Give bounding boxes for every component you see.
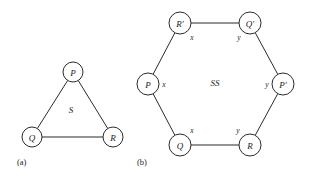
graph-node: R xyxy=(239,134,261,156)
graph-node: P xyxy=(63,62,83,82)
region-label: S xyxy=(69,105,74,115)
graph-node: R xyxy=(103,127,123,147)
node-label: Q xyxy=(29,133,36,143)
node-label: R xyxy=(246,141,253,151)
node-label: P′ xyxy=(278,80,287,90)
graph-edge xyxy=(37,80,67,128)
panel-caption: (a) xyxy=(17,157,27,167)
panel-caption: (b) xyxy=(137,157,147,167)
edge-label: y xyxy=(235,126,240,135)
node-label: Q xyxy=(177,141,184,151)
graph-edge xyxy=(78,81,108,129)
region-label: SS xyxy=(211,78,221,88)
edge-label: y xyxy=(236,33,241,42)
graph-node: P′ xyxy=(272,73,294,95)
graph-edge xyxy=(255,33,278,75)
panel-a: SPQR(a) xyxy=(17,62,123,167)
graph-node: Q′ xyxy=(239,12,261,34)
panel-b: xyyyxxSSR′Q′P′RQP(b) xyxy=(137,12,294,167)
graph-node: Q xyxy=(22,127,42,147)
graph-node: R′ xyxy=(169,12,191,34)
graph-node: Q xyxy=(169,134,191,156)
node-label: R xyxy=(109,133,116,143)
graph-edge xyxy=(153,33,175,75)
figure-canvas: SPQR(a) xyyyxxSSR′Q′P′RQP(b) xyxy=(0,0,312,179)
graph-edge xyxy=(153,94,175,136)
node-label: P xyxy=(69,68,76,78)
node-label: P xyxy=(144,80,151,90)
edge-label: x xyxy=(189,126,194,135)
graph-node: P xyxy=(137,73,159,95)
edge-label: y xyxy=(264,80,269,89)
node-label: R′ xyxy=(175,19,184,29)
edge-label: x xyxy=(189,33,194,42)
graph-edge xyxy=(255,94,278,136)
node-label: Q′ xyxy=(246,19,255,29)
edge-label: x xyxy=(161,80,166,89)
